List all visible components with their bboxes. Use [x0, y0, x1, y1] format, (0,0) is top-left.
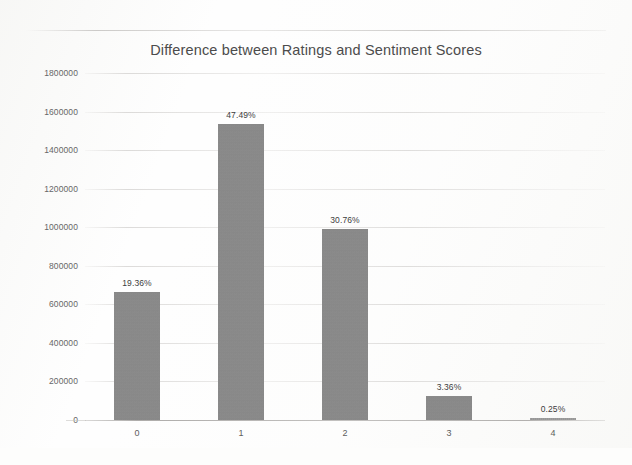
bar[interactable]: [114, 292, 160, 420]
x-axis-line: [85, 420, 605, 421]
bar-value-label: 0.25%: [541, 404, 566, 414]
bar-value-label: 47.49%: [226, 110, 255, 120]
x-tick-label: 3: [397, 428, 501, 438]
y-tick-label: 1000000: [6, 222, 78, 232]
y-tick-label: 1400000: [6, 145, 78, 155]
chart-screenshot: Difference between Ratings and Sentiment…: [0, 0, 632, 465]
plot-area: 19.36% 47.49% 30.76% 3.36% 0.25%: [85, 73, 605, 420]
bar-group: 47.49%: [189, 73, 293, 420]
bar[interactable]: [218, 124, 264, 420]
y-tick-label: 1800000: [6, 68, 78, 78]
x-tick-label: 2: [293, 428, 397, 438]
x-tick-label: 0: [85, 428, 189, 438]
x-tick-label: 1: [189, 428, 293, 438]
y-tick-label: 600000: [6, 299, 78, 309]
page-margin: [0, 448, 632, 465]
bar-value-label: 19.36%: [122, 278, 151, 288]
y-tick-label: 800000: [6, 261, 78, 271]
y-tick-label: 200000: [6, 376, 78, 386]
y-tick-label: 400000: [6, 338, 78, 348]
axis-stub: [66, 420, 86, 421]
bar-group: 0.25%: [501, 73, 605, 420]
x-tick-label: 4: [501, 428, 605, 438]
scan-artifact-line: [26, 30, 606, 31]
page-title: Difference between Ratings and Sentiment…: [0, 42, 632, 58]
y-tick-label: 1600000: [6, 107, 78, 117]
bar-value-label: 30.76%: [330, 215, 359, 225]
bar[interactable]: [322, 229, 368, 420]
bar-value-label: 3.36%: [437, 382, 462, 392]
bar[interactable]: [426, 396, 472, 420]
x-axis: 0 1 2 3 4: [85, 428, 605, 446]
bar-group: 3.36%: [397, 73, 501, 420]
bar[interactable]: [530, 418, 576, 421]
bar-group: 19.36%: [85, 73, 189, 420]
bar-group: 30.76%: [293, 73, 397, 420]
y-tick-label: 1200000: [6, 184, 78, 194]
y-axis: 1800000 1600000 1400000 1200000 1000000 …: [0, 73, 78, 420]
